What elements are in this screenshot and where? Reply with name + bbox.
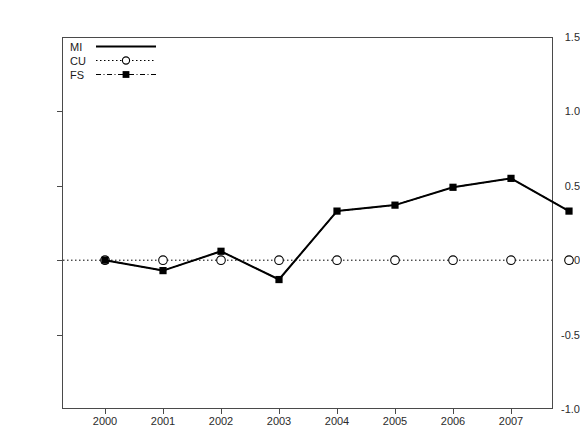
legend-label-cu: CU [70,55,94,67]
legend: MI CU FS [70,40,175,82]
series-cu [63,256,573,265]
legend-label-mi: MI [70,41,94,53]
legend-sample-dashdot-square-icon [94,68,160,81]
legend-item-fs: FS [70,68,175,81]
chart-figure: 1.5 1.0 0.5 0.0 -0.5 -1.0 2000 2001 2002… [0,0,580,446]
legend-label-fs: FS [70,69,94,81]
legend-sample-solid-line-icon [94,40,160,53]
legend-item-cu: CU [70,54,175,67]
legend-sample-dotted-circle-icon [94,54,160,67]
legend-item-mi: MI [70,40,175,53]
